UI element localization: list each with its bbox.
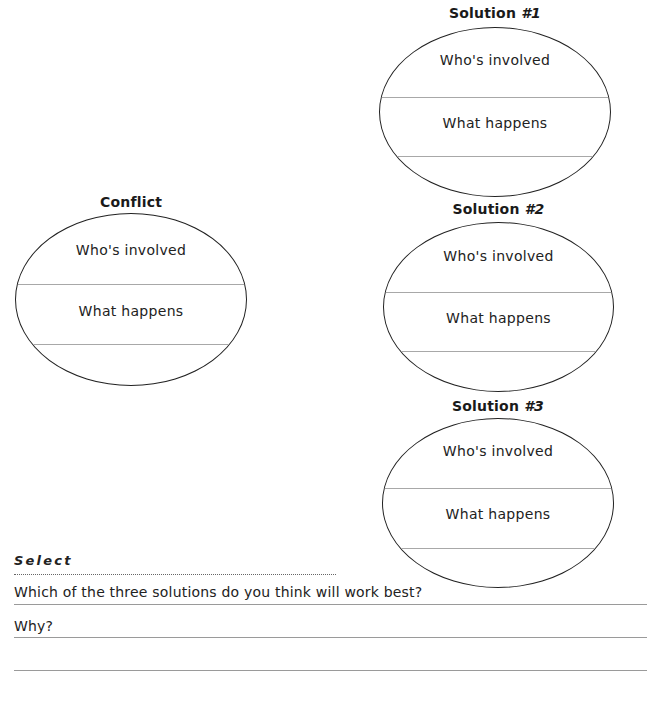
solution-2-who-input[interactable] (384, 267, 613, 293)
solution-1-divider-1 (380, 97, 610, 98)
why-continued-input[interactable] (14, 647, 647, 669)
conflict-divider-2 (16, 344, 246, 345)
solution-2-who-label: Who's involved (384, 248, 613, 264)
select-dotted-rule (14, 574, 336, 575)
solution-3-ellipse: Who's involved What happens (382, 418, 614, 588)
conflict-divider-1 (16, 284, 246, 285)
solution-3-what-label: What happens (383, 506, 613, 522)
solution-2-title-label: Solution (452, 201, 519, 217)
solution-3-organizer: Solution #3 Who's involved What happens (382, 392, 614, 592)
solution-1-extra-input[interactable] (380, 162, 610, 188)
solution-1-title-label: Solution (449, 5, 516, 21)
solution-1-ellipse: Who's involved What happens (379, 27, 611, 197)
conflict-organizer: Conflict Who's involved What happens (15, 190, 247, 390)
which-solution-question: Which of the three solutions do you thin… (14, 584, 422, 600)
solution-3-title: Solution #3 (382, 398, 614, 414)
conflict-who-label: Who's involved (16, 242, 246, 258)
solution-2-extra-input[interactable] (384, 357, 613, 383)
solution-2-ellipse: Who's involved What happens (383, 222, 614, 392)
solution-1-organizer: Solution #1 Who's involved What happens (379, 0, 611, 200)
why-continued-rule (14, 670, 647, 671)
why-question: Why? (14, 618, 53, 634)
solution-1-what-label: What happens (380, 115, 610, 131)
solution-3-number: #3 (524, 398, 544, 414)
conflict-title: Conflict (15, 194, 247, 210)
solution-2-organizer: Solution #2 Who's involved What happens (383, 196, 614, 396)
solution-2-divider-2 (384, 351, 613, 352)
why-answer-input[interactable] (60, 615, 647, 637)
solution-2-what-label: What happens (384, 310, 613, 326)
why-rule (14, 637, 647, 638)
conflict-extra-input[interactable] (16, 350, 246, 376)
solution-3-divider-1 (383, 488, 613, 489)
solution-1-divider-2 (380, 156, 610, 157)
conflict-what-input[interactable] (16, 319, 246, 345)
solution-1-title: Solution #1 (379, 5, 611, 21)
solution-3-who-input[interactable] (383, 463, 613, 489)
solution-2-what-input[interactable] (384, 327, 613, 353)
solution-1-number: #1 (521, 5, 541, 21)
select-heading: Select (14, 553, 73, 568)
solution-3-title-label: Solution (452, 398, 519, 414)
conflict-who-input[interactable] (16, 260, 246, 286)
solution-3-what-input[interactable] (383, 523, 613, 549)
solution-1-who-label: Who's involved (380, 52, 610, 68)
solution-2-divider-1 (384, 292, 613, 293)
solution-3-extra-input[interactable] (383, 554, 613, 580)
conflict-what-label: What happens (16, 303, 246, 319)
solution-1-what-input[interactable] (380, 132, 610, 158)
question-rule-1 (14, 604, 647, 605)
solution-1-who-input[interactable] (380, 72, 610, 98)
conflict-ellipse: Who's involved What happens (15, 213, 247, 386)
solution-2-title: Solution #2 (383, 201, 614, 217)
solution-3-divider-2 (383, 548, 613, 549)
solution-2-number: #2 (525, 201, 545, 217)
solution-3-who-label: Who's involved (383, 443, 613, 459)
